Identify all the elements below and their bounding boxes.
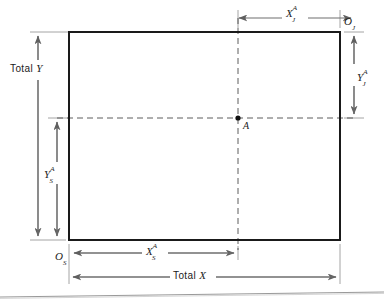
- dimension-label-y-j-a: YAJ: [357, 68, 371, 84]
- label-base-o-s: O: [55, 250, 63, 262]
- label-total-word-y: Total: [10, 63, 33, 74]
- point-a-label: A: [243, 121, 249, 131]
- label-letter-x-total: X: [199, 269, 206, 281]
- scan-artifact-line: [0, 292, 384, 298]
- dimension-label-total-y: Total Y: [10, 63, 43, 74]
- origin-label-s: OS: [55, 247, 66, 263]
- label-sup-x-j: A: [293, 4, 297, 12]
- main-rectangle: [69, 32, 340, 240]
- point-a-marker: [235, 115, 240, 120]
- dashed-center-lines: [57, 18, 356, 250]
- extension-lines: [30, 10, 364, 284]
- label-sup-x-s: A: [153, 242, 157, 250]
- label-letter-y-total: Y: [36, 62, 43, 74]
- label-sub-o-s: S: [63, 259, 67, 267]
- dimension-label-total-x: Total X: [173, 270, 206, 281]
- label-sup-y-j: A: [363, 68, 367, 76]
- dimension-label-x-j-a: XAJ: [286, 4, 300, 20]
- label-sub-x-s: S: [152, 254, 156, 262]
- origin-label-j: OJ: [344, 12, 355, 28]
- label-sup-y-s: A: [50, 165, 54, 173]
- dimension-label-y-s-a: YAS: [44, 165, 58, 181]
- label-base-o-j: O: [344, 15, 352, 27]
- label-total-word-x: Total: [173, 270, 196, 281]
- diagram-canvas: XAJ OJ YAJ Total Y YAS A OS XAS Total X: [0, 0, 384, 307]
- label-sub-y-j: J: [362, 80, 365, 88]
- label-gap-masks: [31, 12, 366, 283]
- label-sub-y-s: S: [49, 177, 53, 185]
- dimension-lines: [38, 18, 354, 277]
- label-sub-x-j: J: [292, 16, 295, 24]
- dimension-label-x-s-a: XAS: [146, 242, 161, 258]
- label-sub-o-j: J: [352, 24, 355, 32]
